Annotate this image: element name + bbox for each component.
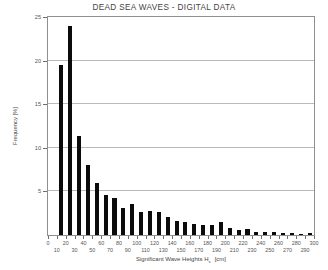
- y-tick-label-20: 20: [35, 58, 41, 64]
- x-tick-label-250: 250: [265, 247, 274, 253]
- x-tick-label-170: 170: [194, 247, 203, 253]
- x-tick-20: [66, 236, 67, 239]
- x-tick-label-290: 290: [301, 247, 310, 253]
- bar: [263, 232, 267, 235]
- x-axis-title-main: Significant Wave Heights H: [136, 256, 208, 262]
- x-tick-40: [83, 236, 84, 239]
- x-tick-260: [279, 236, 280, 239]
- x-tick-label-110: 110: [141, 247, 150, 253]
- y-tick-label-5: 5: [38, 188, 41, 194]
- x-tick-label-220: 220: [239, 240, 248, 246]
- bar-series: [48, 17, 314, 235]
- bar: [86, 165, 90, 235]
- x-tick-200: [225, 236, 226, 239]
- x-tick-120: [154, 236, 155, 239]
- y-tick-label-10: 10: [35, 145, 41, 151]
- x-tick-230: [252, 236, 253, 239]
- x-tick-10: [57, 236, 58, 239]
- x-tick-90: [128, 236, 129, 239]
- y-tick-label-15: 15: [35, 101, 41, 107]
- x-tick-label-40: 40: [80, 240, 86, 246]
- x-axis-title: Significant Wave Heights Hs[cm]: [47, 256, 315, 264]
- x-tick-280: [296, 236, 297, 239]
- x-tick-label-210: 210: [230, 247, 239, 253]
- x-tick-160: [190, 236, 191, 239]
- x-tick-label-80: 80: [116, 240, 122, 246]
- bar: [272, 232, 276, 235]
- x-tick-label-240: 240: [256, 240, 265, 246]
- bar: [219, 222, 223, 235]
- bar: [148, 211, 152, 235]
- bar: [175, 221, 179, 235]
- bar: [166, 217, 170, 235]
- bar: [157, 212, 161, 235]
- y-axis-title: Frequency [%]: [12, 91, 18, 161]
- x-tick-180: [208, 236, 209, 239]
- chart-figure: DEAD SEA WAVES - DIGITAL DATA Frequency …: [0, 0, 328, 270]
- x-tick-150: [181, 236, 182, 239]
- x-tick-210: [234, 236, 235, 239]
- x-tick-label-150: 150: [177, 247, 186, 253]
- x-tick-label-90: 90: [125, 247, 131, 253]
- bar: [299, 234, 303, 235]
- x-tick-130: [163, 236, 164, 239]
- x-tick-label-300: 300: [310, 240, 319, 246]
- x-tick-label-0: 0: [47, 240, 50, 246]
- x-tick-label-230: 230: [247, 247, 256, 253]
- x-tick-label-200: 200: [221, 240, 230, 246]
- x-axis-title-units: [cm]: [215, 256, 226, 262]
- bar: [201, 225, 205, 235]
- bar: [59, 65, 63, 235]
- x-tick-300: [314, 236, 315, 239]
- bar: [130, 204, 134, 235]
- bar: [228, 228, 232, 235]
- x-tick-label-270: 270: [283, 247, 292, 253]
- x-tick-30: [75, 236, 76, 239]
- bar: [254, 232, 258, 235]
- x-tick-label-140: 140: [168, 240, 177, 246]
- x-tick-label-60: 60: [98, 240, 104, 246]
- bar: [183, 222, 187, 235]
- bar: [290, 233, 294, 235]
- bar: [104, 195, 108, 235]
- x-tick-label-260: 260: [274, 240, 283, 246]
- x-axis: Significant Wave Heights Hs[cm] 02040608…: [47, 236, 315, 270]
- x-tick-60: [101, 236, 102, 239]
- x-tick-label-20: 20: [63, 240, 69, 246]
- bar: [77, 136, 81, 235]
- bar: [112, 198, 116, 235]
- x-tick-220: [243, 236, 244, 239]
- x-tick-70: [110, 236, 111, 239]
- x-tick-label-280: 280: [292, 240, 301, 246]
- x-tick-240: [261, 236, 262, 239]
- bar: [95, 183, 99, 235]
- x-tick-0: [48, 236, 49, 239]
- bar: [139, 212, 143, 235]
- x-tick-110: [146, 236, 147, 239]
- x-tick-140: [172, 236, 173, 239]
- x-tick-100: [137, 236, 138, 239]
- x-tick-label-100: 100: [132, 240, 141, 246]
- chart-title: DEAD SEA WAVES - DIGITAL DATA: [0, 3, 328, 12]
- bar: [281, 233, 285, 235]
- x-tick-label-160: 160: [185, 240, 194, 246]
- bar: [210, 225, 214, 235]
- bar: [192, 224, 196, 235]
- x-tick-190: [216, 236, 217, 239]
- x-axis-title-subscript: s: [208, 259, 210, 264]
- x-tick-290: [305, 236, 306, 239]
- x-tick-label-130: 130: [159, 247, 168, 253]
- x-tick-label-50: 50: [89, 247, 95, 253]
- x-tick-label-70: 70: [107, 247, 113, 253]
- y-tick-label-25: 25: [35, 14, 41, 20]
- x-tick-label-30: 30: [72, 247, 78, 253]
- bar: [121, 208, 125, 235]
- x-tick-label-120: 120: [150, 240, 159, 246]
- bar: [308, 233, 312, 235]
- x-tick-80: [119, 236, 120, 239]
- x-tick-250: [270, 236, 271, 239]
- x-tick-label-10: 10: [54, 247, 60, 253]
- x-tick-label-190: 190: [212, 247, 221, 253]
- bar: [68, 26, 72, 235]
- x-tick-50: [92, 236, 93, 239]
